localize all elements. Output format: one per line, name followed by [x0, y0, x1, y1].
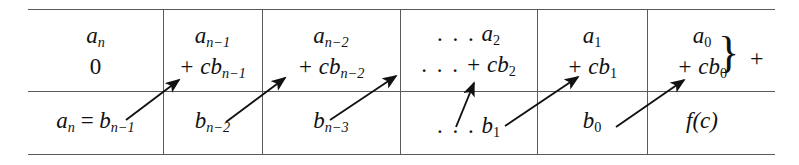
cell-col3-top-line1: an−2: [262, 23, 400, 49]
cell-col2-bottom: bn−2: [163, 91, 262, 154]
cell-col3-bottom: bn−3: [262, 91, 400, 154]
term-b: b: [481, 113, 493, 138]
term-b: b: [99, 108, 111, 133]
cell-col6-bottom: f(c): [647, 91, 775, 154]
term-a: a: [195, 23, 207, 48]
term-f-of-c: f(c): [686, 108, 718, 133]
cell-col2-top-line2: + cbn−1: [163, 54, 262, 80]
term-a: a: [56, 108, 68, 133]
cell-col4-bottom: . . . b1: [400, 91, 537, 154]
term-a-subscript: 0: [704, 34, 711, 50]
term-b-subscript: n−1: [111, 119, 135, 135]
cell-col4-top-line1: . . . a2: [400, 21, 537, 47]
term-cb-subscript: 1: [610, 65, 617, 81]
figure-canvas: an 0 an = bn−1 an−1 + cbn−1 bn−2: [0, 0, 799, 165]
term-cb-subscript: n−1: [222, 65, 246, 81]
term-zero: 0: [90, 54, 102, 79]
term-a-subscript: n−1: [206, 34, 230, 50]
term-cb-subscript: 2: [509, 63, 516, 79]
cell-col1-top-line2: 0: [28, 54, 163, 80]
cell-col4-top: . . . a2 . . . + cb2: [400, 9, 537, 91]
term-b-subscript: n−2: [206, 119, 230, 135]
term-b: b: [583, 108, 595, 133]
term-a-subscript: n: [68, 119, 75, 135]
term-a-subscript: 2: [493, 32, 500, 48]
cell-col1-bottom: an = bn−1: [28, 91, 163, 154]
cell-col3-top: an−2 + cbn−2: [262, 9, 400, 91]
term-a: a: [313, 23, 325, 48]
ellipsis: . . .: [437, 21, 476, 46]
cell-col1-top-line1: an: [28, 23, 163, 49]
term-b-subscript: n−3: [325, 119, 349, 135]
term-cb: + cb: [179, 54, 222, 79]
cell-col3-top-line2: + cbn−2: [262, 54, 400, 80]
cell-col2-top: an−1 + cbn−1: [163, 9, 262, 91]
term-b: b: [195, 108, 207, 133]
trailing-plus-sign: +: [750, 45, 764, 72]
table-bottom-rule: [28, 154, 775, 155]
synthetic-division-table: an 0 an = bn−1 an−1 + cbn−1 bn−2: [28, 9, 775, 155]
cell-col2-top-line1: an−1: [163, 23, 262, 49]
term-a-subscript: n: [98, 34, 105, 50]
term-a: a: [481, 21, 493, 46]
term-b: b: [313, 108, 325, 133]
cell-col4-bottom-line: . . . b1: [400, 113, 537, 139]
term-cb: + cb: [677, 54, 720, 79]
term-cb: + cb: [567, 54, 610, 79]
term-b-subscript: 0: [594, 119, 601, 135]
term-a-subscript: n−2: [325, 34, 349, 50]
ellipsis: . . .: [421, 52, 460, 77]
term-cb: + cb: [298, 54, 341, 79]
cell-col3-bottom-line: bn−3: [262, 108, 400, 134]
equals-sign: =: [75, 108, 99, 133]
term-b-subscript: 1: [493, 124, 500, 140]
ellipsis: . . .: [437, 113, 476, 138]
term-a-subscript: 1: [594, 34, 601, 50]
cell-col6-bottom-line: f(c): [629, 108, 775, 134]
term-cb-subscript: n−2: [341, 65, 365, 81]
closing-brace-glyph: }: [718, 31, 739, 75]
cell-col1-top: an 0: [28, 9, 163, 91]
term-a: a: [693, 23, 705, 48]
term-a: a: [583, 23, 595, 48]
term-cb: + cb: [466, 52, 509, 77]
cell-col4-top-line2: . . . + cb2: [400, 52, 537, 78]
term-a: a: [86, 23, 98, 48]
cell-col2-bottom-line: bn−2: [163, 108, 262, 134]
cell-col1-bottom-line: an = bn−1: [28, 108, 163, 134]
